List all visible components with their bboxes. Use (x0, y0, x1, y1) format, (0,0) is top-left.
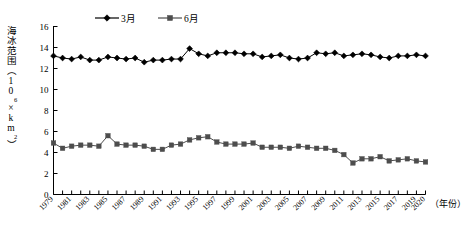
x-axis-tick-label-group: 1985 (92, 195, 110, 213)
x-axis-tick-label-group: 1983 (74, 195, 92, 213)
data-point (305, 55, 311, 61)
data-point (259, 54, 265, 60)
legend-item[interactable]: 3月 (95, 14, 136, 24)
y-axis-tick-label: 2 (44, 169, 49, 179)
data-point (386, 55, 392, 61)
chart-canvas: 0246810121416197919811983198519871989199… (0, 0, 471, 226)
data-point (105, 54, 111, 60)
y-axis-tick-label: 14 (40, 43, 50, 53)
data-point (378, 154, 383, 159)
data-point (96, 57, 102, 63)
data-point (414, 52, 420, 58)
x-axis-tick-label: 2007 (291, 195, 309, 213)
x-axis-tick-label-group: 1993 (164, 195, 182, 213)
data-point (387, 159, 392, 164)
data-point (360, 157, 365, 162)
data-point (205, 134, 210, 139)
data-point (196, 51, 202, 57)
x-axis-tick-label-group: 2011 (328, 195, 345, 212)
x-axis-tick-label-group: 2017 (382, 195, 400, 213)
data-point (305, 145, 310, 150)
legend-item[interactable]: 6月 (158, 14, 199, 24)
data-point (169, 143, 174, 148)
y-axis-tick-label: 16 (40, 22, 50, 32)
data-point (268, 53, 274, 59)
data-point (160, 147, 165, 152)
x-axis-tick-label-group: 1991 (146, 195, 164, 213)
x-axis-tick-label: 1989 (128, 195, 146, 213)
data-point (51, 53, 57, 59)
legend-label: 6月 (184, 14, 199, 24)
data-point (323, 146, 328, 151)
x-axis-tick-label-group: 1995 (182, 195, 200, 213)
data-point (132, 55, 138, 61)
data-point (150, 57, 156, 63)
data-point (97, 144, 102, 149)
data-point (78, 54, 84, 60)
data-point (123, 56, 129, 62)
legend-label: 3月 (121, 14, 136, 24)
x-axis-tick-label-group: 1981 (55, 195, 73, 213)
x-axis-tick-label-group: 2009 (309, 195, 327, 213)
data-point (332, 148, 337, 153)
data-point (205, 53, 211, 59)
data-point (278, 145, 283, 150)
data-point (296, 144, 301, 149)
data-point (369, 157, 374, 162)
data-point (377, 54, 383, 60)
x-axis-tick-label: 1995 (182, 195, 200, 213)
legend-marker-diamond-icon (104, 15, 110, 21)
x-axis-tick-label: 1999 (219, 195, 237, 213)
data-point (296, 56, 302, 62)
y-axis-tick-label: 10 (40, 85, 50, 95)
data-point (69, 56, 75, 62)
data-point (269, 145, 274, 150)
data-point (423, 160, 428, 165)
legend-marker-square-icon (167, 15, 172, 20)
data-point (287, 55, 293, 61)
data-point (323, 51, 329, 57)
y-axis-tick-label: 12 (40, 64, 49, 74)
data-point (359, 51, 365, 57)
y-axis-tick-label: 4 (44, 148, 49, 158)
x-axis-tick-label-group: 1999 (219, 195, 237, 213)
data-point (341, 53, 347, 59)
data-point (414, 159, 419, 164)
data-point (241, 51, 247, 57)
data-point (260, 145, 265, 150)
data-point (51, 141, 56, 146)
x-axis-tick-label: 2015 (364, 195, 382, 213)
data-point (151, 147, 156, 152)
data-point (78, 143, 83, 148)
data-point (368, 52, 374, 58)
data-point (242, 142, 247, 147)
x-axis-tick-label: 1985 (92, 195, 110, 213)
x-axis-tick-label: 1991 (146, 195, 164, 213)
x-axis-tick-label: 2017 (382, 195, 400, 213)
x-axis-tick-label-group: 2013 (346, 195, 364, 213)
data-point (351, 161, 356, 166)
data-point (423, 53, 429, 59)
x-axis-tick-label: 2001 (237, 195, 255, 213)
data-point (404, 53, 410, 59)
x-axis-tick-label-group: 1997 (201, 195, 219, 213)
data-point (332, 50, 338, 56)
x-axis-tick-label-group: 2015 (364, 195, 382, 213)
data-point (215, 140, 220, 145)
data-point (277, 52, 283, 58)
x-axis-tick-label: 1993 (164, 195, 182, 213)
x-axis-tick-label-group: 2003 (255, 195, 273, 213)
data-point (178, 142, 183, 147)
data-point (87, 57, 93, 63)
x-axis-title: （年份） (430, 198, 466, 209)
data-point (224, 142, 229, 147)
data-point (223, 50, 229, 56)
data-point (69, 144, 74, 149)
data-point (314, 146, 319, 151)
x-axis-tick-label-group: 1989 (128, 195, 146, 213)
chart-root: 海冰范围（106×km2） 02468101214161979198119831… (0, 0, 471, 226)
data-point (124, 143, 129, 148)
x-axis-tick-label-group: 1979 (37, 195, 55, 213)
x-axis-tick-label-group: 2005 (273, 195, 291, 213)
data-point (342, 152, 347, 157)
